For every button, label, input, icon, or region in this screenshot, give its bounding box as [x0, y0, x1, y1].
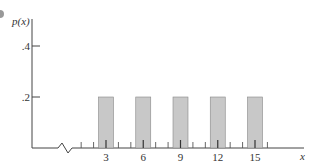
corner-marker — [0, 10, 4, 18]
x-tick-label: 12 — [212, 151, 223, 163]
x-axis-label: x — [299, 150, 305, 162]
chart: p(x) .2.4 3691215 x — [0, 0, 316, 166]
y-tick-label: .2 — [22, 91, 30, 103]
y-ticks: .2.4 — [22, 40, 40, 103]
x-tick-label: 15 — [250, 151, 262, 163]
axis-break-icon — [58, 143, 72, 153]
x-tick-label: 3 — [103, 151, 109, 163]
x-tick-label: 6 — [141, 151, 147, 163]
x-tick-label: 9 — [178, 151, 184, 163]
y-axis-label: p(x) — [11, 15, 30, 28]
x-tick-labels: 3691215 — [103, 151, 261, 163]
y-tick-label: .4 — [22, 40, 31, 52]
